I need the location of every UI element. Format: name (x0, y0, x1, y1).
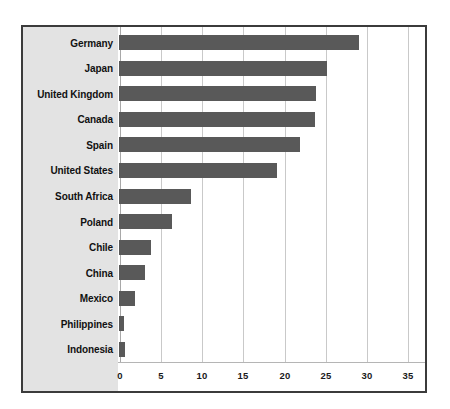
bar-mexico (119, 291, 135, 306)
category-label-united-states: United States (50, 166, 113, 176)
bar-japan (119, 61, 327, 76)
category-label-japan: Japan (85, 64, 113, 74)
bar-united-states (119, 163, 277, 178)
category-label-chile: Chile (89, 243, 113, 253)
bar-row: United Kingdom (118, 86, 425, 101)
bar-philippines (119, 316, 124, 331)
bar-row: Chile (118, 240, 425, 255)
bar-row: Poland (118, 214, 425, 229)
x-tick-label-25: 25 (321, 370, 332, 381)
bar-row: Germany (118, 35, 425, 50)
bar-row: China (118, 265, 425, 280)
bar-united-kingdom (119, 86, 316, 101)
category-label-united-kingdom: United Kingdom (37, 90, 113, 100)
category-label-indonesia: Indonesia (67, 345, 113, 355)
bar-row: Mexico (118, 291, 425, 306)
category-label-spain: Spain (86, 141, 113, 151)
category-label-south-africa: South Africa (55, 192, 113, 202)
bar-canada (119, 112, 315, 127)
bar-row: South Africa (118, 189, 425, 204)
category-label-canada: Canada (77, 115, 113, 125)
bar-row: Indonesia (118, 342, 425, 357)
bar-germany (119, 35, 359, 50)
bar-indonesia (119, 342, 125, 357)
bar-row: Spain (118, 137, 425, 152)
plot-area: GermanyJapanUnited KingdomCanadaSpainUni… (118, 27, 425, 391)
x-tick-label-35: 35 (403, 370, 414, 381)
x-axis-line (118, 362, 425, 363)
bar-row: Philippines (118, 316, 425, 331)
x-tick-label-20: 20 (280, 370, 291, 381)
chart-frame: GermanyJapanUnited KingdomCanadaSpainUni… (21, 25, 427, 393)
category-label-mexico: Mexico (80, 294, 113, 304)
x-tick-label-15: 15 (238, 370, 249, 381)
x-tick-label-0: 0 (117, 370, 122, 381)
bar-spain (119, 137, 300, 152)
category-label-panel (23, 27, 118, 391)
bar-row: United States (118, 163, 425, 178)
category-label-poland: Poland (80, 218, 113, 228)
bar-south-africa (119, 189, 191, 204)
bar-row: Japan (118, 61, 425, 76)
category-label-china: China (86, 269, 113, 279)
x-tick-label-5: 5 (158, 370, 163, 381)
category-label-philippines: Philippines (61, 320, 113, 330)
bar-poland (119, 214, 172, 229)
category-label-germany: Germany (70, 39, 113, 49)
x-tick-label-30: 30 (362, 370, 373, 381)
bar-chile (119, 240, 151, 255)
x-tick-label-10: 10 (197, 370, 208, 381)
bar-china (119, 265, 145, 280)
bar-row: Canada (118, 112, 425, 127)
